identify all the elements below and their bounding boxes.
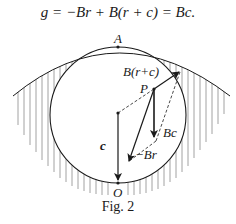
label-c: c <box>100 138 106 153</box>
outer-arc <box>13 53 230 96</box>
label-b-r-plus-c: B(r+c) <box>123 64 159 79</box>
label-p: P <box>139 81 148 96</box>
point-p <box>152 87 155 90</box>
label-neg-br: −Br <box>135 147 158 162</box>
point-center <box>116 111 119 114</box>
label-bc: Bc <box>163 125 177 140</box>
label-o: O <box>113 185 123 200</box>
figure-diagram: A P O c Bc −Br B(r+c) <box>0 0 236 224</box>
label-a: A <box>113 31 122 46</box>
figure-caption: Fig. 2 <box>0 199 236 215</box>
